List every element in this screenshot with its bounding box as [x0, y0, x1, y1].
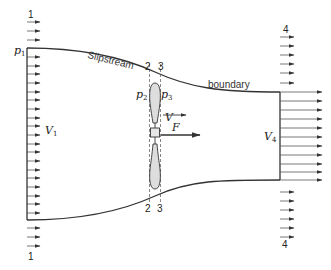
inflow-arrows-above	[27, 22, 40, 40]
station-3-bottom-label: 3	[157, 204, 163, 214]
p2-label: p2	[136, 89, 148, 102]
inflow-arrows-v1	[27, 57, 40, 213]
station-4-top-label: 4	[283, 25, 289, 35]
p3-label: p3	[161, 89, 173, 102]
station-1-bottom-label: 1	[28, 252, 34, 262]
propeller	[150, 83, 161, 189]
v1-label: V1	[45, 125, 57, 138]
outflow-arrows-below	[280, 192, 294, 237]
inflow-arrows-below	[27, 228, 40, 246]
outflow-arrows-above	[280, 37, 294, 83]
station-3-top-label: 3	[158, 62, 164, 72]
v4-label: V4	[264, 131, 276, 144]
station-2-bottom-label: 2	[145, 204, 151, 214]
outflow-arrows-v4	[280, 92, 322, 180]
f-label: F	[172, 122, 180, 133]
boundary-label: boundary	[208, 80, 250, 90]
station-1-top-label: 1	[28, 10, 34, 20]
station-2-top-label: 2	[145, 62, 151, 72]
p1-label: p1	[14, 45, 26, 58]
station-4-bottom-label: 4	[282, 240, 288, 250]
